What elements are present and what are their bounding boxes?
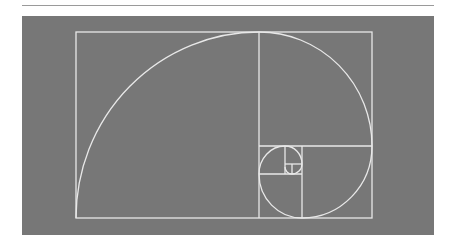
spiral-curve xyxy=(76,32,372,218)
outer-rectangle xyxy=(76,32,372,218)
golden-spiral-diagram xyxy=(0,0,453,244)
